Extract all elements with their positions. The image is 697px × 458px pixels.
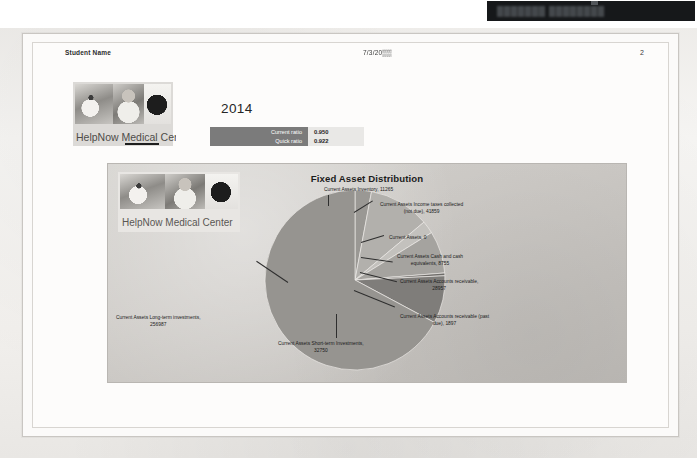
silhouette-photo-icon	[144, 84, 171, 124]
document-sheet: Student Name 7/3/20▒▒ 2 HelpNow Medical …	[22, 33, 679, 437]
pie-label-income-taxes: Current Assets Income taxes collected (n…	[380, 201, 463, 215]
top-strip: ███████ ████████	[0, 0, 697, 28]
toolbar-notch	[591, 1, 598, 5]
pie-label-line1: Current Assets Long-term investments,	[116, 314, 201, 321]
patient-photo-icon	[113, 84, 144, 124]
ratio-table-rows: Current ratio 0.950 Quick ratio 0.922	[259, 127, 364, 146]
ratio-label: Quick ratio	[259, 137, 308, 147]
pie-label-short-term-investments: Current Assets Short-term Investments, 3…	[278, 340, 364, 354]
pie-label-cash-equivalents: Current Assets Cash and cash equivalents…	[397, 253, 463, 267]
logo-underline-rule	[125, 143, 159, 145]
pie-label-line2: equivalents, 8755	[397, 260, 463, 267]
pie-label-line1: Current Assets Accounts receivable,	[400, 278, 478, 285]
chart-panel: HelpNow Medical Center Fixed Asset Distr…	[107, 163, 627, 383]
leader-line	[328, 195, 329, 206]
table-row: Current ratio 0.950	[259, 127, 364, 137]
ratio-table-swatch	[210, 127, 259, 146]
pie-label-inventory: Current Assets Inventory, 11265	[324, 186, 393, 193]
ratio-value: 0.922	[308, 138, 364, 144]
pie-label-line1: Current Assets Income taxes collected	[380, 201, 463, 208]
pie-label-long-term-investments: Current Assets Long-term investments, 25…	[116, 314, 201, 328]
doctor-photo-icon	[75, 84, 113, 124]
pie-label-line1: Current Assets Inventory, 11265	[324, 186, 393, 193]
pie-label-line1: Current Assets Accounts receivable (past	[400, 313, 489, 320]
pie-label-line2: 256987	[116, 321, 201, 328]
leader-line	[336, 314, 337, 338]
pie-label-line2: (not due), 41859	[380, 208, 463, 215]
pie-label-line1: Current Assets Short-term Investments,	[278, 340, 364, 347]
header-date: 7/3/20▒▒	[363, 49, 392, 56]
document-inner-border: Student Name 7/3/20▒▒ 2 HelpNow Medical …	[32, 42, 669, 428]
pie-label-line1: Current Assets, 0	[389, 234, 427, 241]
cropped-toolbar-bar: ███████ ████████	[487, 1, 695, 21]
pie-label-line2: 28957	[400, 285, 478, 292]
ratio-label: Current ratio	[259, 127, 308, 137]
brand-logo-header: HelpNow Medical Center	[73, 82, 173, 146]
pie-label-accounts-receivable-past-due: Current Assets Accounts receivable (past…	[400, 313, 489, 327]
page-number: 2	[640, 49, 644, 56]
pie-label-line2: due), 1897	[400, 320, 489, 327]
pie-label-accounts-receivable: Current Assets Accounts receivable, 2895…	[400, 278, 478, 292]
ratio-value: 0.950	[308, 129, 364, 135]
ratio-table: Current ratio 0.950 Quick ratio 0.922	[210, 127, 364, 146]
header-student-name: Student Name	[65, 49, 111, 56]
pie-label-line2: 32750	[278, 347, 364, 354]
pie-label-current-assets: Current Assets, 0	[389, 234, 427, 241]
pie-chart: Current Assets Inventory, 11265 Current …	[108, 164, 626, 382]
pie-label-line1: Current Assets Cash and cash	[397, 253, 463, 260]
page-header: Student Name 7/3/20▒▒ 2	[65, 49, 644, 65]
logo-photo-strip	[75, 84, 171, 124]
table-row: Quick ratio 0.922	[259, 137, 364, 147]
year-label: 2014	[221, 101, 253, 116]
